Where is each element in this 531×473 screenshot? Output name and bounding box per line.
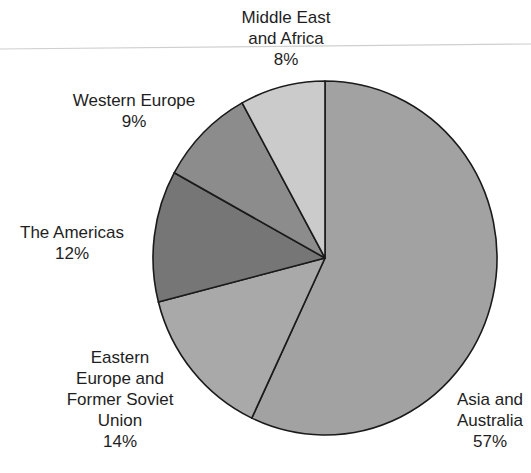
label-percent: 9% <box>54 111 214 132</box>
label-line: Middle East <box>226 7 346 28</box>
label-percent: 12% <box>2 243 142 264</box>
label-line: Union <box>52 410 188 431</box>
label-asia-australia: Asia and Australia 57% <box>440 389 531 452</box>
label-percent: 8% <box>226 49 346 70</box>
label-line: and Africa <box>226 28 346 49</box>
label-the-americas: The Americas 12% <box>2 222 142 264</box>
label-line: Western Europe <box>54 90 214 111</box>
label-line: Eastern <box>52 347 188 368</box>
pie-slices <box>153 81 497 435</box>
label-line: Former Soviet <box>52 389 188 410</box>
label-line: Australia <box>440 410 531 431</box>
label-line: The Americas <box>2 222 142 243</box>
label-percent: 57% <box>440 431 531 452</box>
label-line: Asia and <box>440 389 531 410</box>
label-western-europe: Western Europe 9% <box>54 90 214 132</box>
pie-chart: Middle East and Africa 8% Western Europe… <box>0 0 531 473</box>
label-middle-east-africa: Middle East and Africa 8% <box>226 7 346 70</box>
label-line: Europe and <box>52 368 188 389</box>
label-percent: 14% <box>52 431 188 452</box>
label-eastern-europe-fsu: Eastern Europe and Former Soviet Union 1… <box>52 347 188 452</box>
